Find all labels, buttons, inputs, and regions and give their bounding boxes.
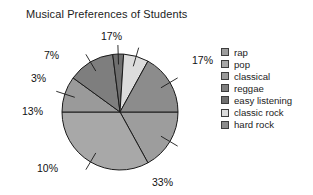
legend-item[interactable]: classic rock (221, 106, 309, 118)
legend-item[interactable]: reggae (221, 82, 309, 94)
pie-slices-group (62, 54, 178, 170)
pie-slice-value-label: 33% (152, 176, 173, 188)
legend-swatch-icon (221, 84, 229, 92)
legend-item-label: classical (234, 71, 270, 82)
legend-item[interactable]: easy listening (221, 94, 309, 106)
legend-item-label: pop (234, 59, 250, 70)
legend-swatch-icon (221, 72, 229, 80)
legend-item-label: reggae (234, 83, 264, 94)
pie-slice-value-label: 13% (22, 105, 43, 117)
pie-callout-line (118, 45, 119, 64)
legend-item-label: hard rock (234, 119, 274, 130)
pie-slice-value-label: 7% (44, 49, 59, 61)
legend-item-label: classic rock (234, 107, 284, 118)
legend-swatch-icon (221, 60, 229, 68)
pie-chart-figure: Musical Preferences of Students 17%33%10… (0, 0, 313, 195)
legend-swatch-icon (221, 96, 229, 104)
legend-swatch-icon (221, 109, 229, 117)
pie-slice-value-label: 10% (37, 162, 58, 174)
legend-item[interactable]: pop (221, 58, 309, 70)
chart-legend: rappopclassicalreggaeeasy listeningclass… (221, 46, 309, 131)
pie-slice-value-label: 3% (31, 72, 46, 84)
legend-item-label: rap (234, 47, 248, 58)
legend-swatch-icon (221, 121, 229, 129)
legend-item[interactable]: rap (221, 46, 309, 58)
legend-item[interactable]: hard rock (221, 119, 309, 131)
pie-slice-value-label: 17% (192, 54, 213, 66)
legend-swatch-icon (221, 48, 229, 56)
legend-item[interactable]: classical (221, 70, 309, 82)
legend-item-label: easy listening (234, 95, 292, 106)
pie-slice-value-label: 17% (101, 30, 122, 42)
